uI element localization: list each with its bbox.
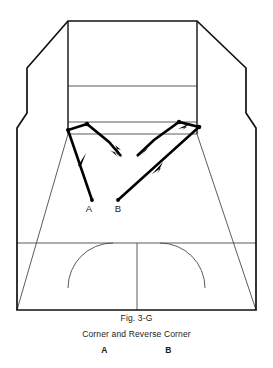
- figure-container: A B Fig. 3-G Corner and Reverse Corner A…: [0, 0, 273, 368]
- court-perimeter: [17, 21, 256, 310]
- shot-b-front-wall-node: [177, 120, 181, 124]
- legend-key-b: B: [137, 345, 201, 355]
- left-service-arc: [68, 243, 113, 288]
- court-outer-outline: [17, 21, 256, 310]
- court-origin-label-b: B: [115, 203, 121, 214]
- shot-a-front-wall-node: [85, 122, 89, 126]
- right-service-arc: [160, 243, 205, 288]
- figure-title: Corner and Reverse Corner: [0, 329, 273, 339]
- shot-path-b: [116, 120, 201, 202]
- left-floor-diagonal: [17, 134, 68, 310]
- right-floor-diagonal: [197, 134, 256, 310]
- shot-a-origin-dot: [90, 198, 94, 202]
- figure-legend-keys: AB: [0, 345, 273, 355]
- legend-key-a: A: [73, 345, 137, 355]
- court-origin-label-a: A: [86, 203, 93, 214]
- shot-b-origin-dot: [116, 198, 120, 202]
- shot-b-arrow-3-icon: [135, 148, 148, 158]
- court-interior-lines: [17, 86, 256, 310]
- figure-number: Fig. 3-G: [0, 313, 273, 323]
- shot-a-trajectory: [68, 124, 121, 200]
- shot-b-wall-node: [197, 125, 201, 129]
- shot-a-wall-node: [66, 128, 70, 132]
